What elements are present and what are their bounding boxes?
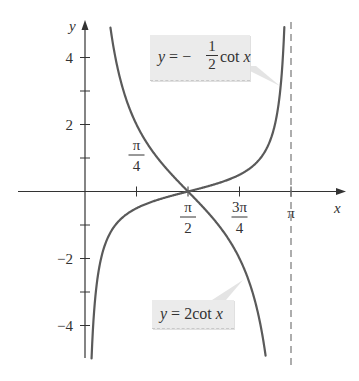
y-tick-label: −4	[57, 318, 73, 334]
x-tick-label-denominator: 4	[236, 220, 244, 236]
x-axis-label: x	[333, 200, 341, 216]
y-tick-label: 2	[66, 117, 74, 133]
x-tick-label-denominator: 2	[184, 220, 192, 236]
y-axis-arrow-icon	[82, 20, 89, 30]
callout-neg-half-cot: y = − 1 2 cot x	[150, 35, 250, 81]
x-tick-label: π	[287, 205, 295, 221]
x-axis-arrow-icon	[336, 188, 346, 195]
callout-pointer-bottom	[212, 280, 243, 300]
x-tick-label-numerator: 3π	[232, 199, 248, 215]
x-tick-label-denominator: 4	[133, 158, 141, 174]
y-tick-label: −2	[57, 251, 73, 267]
x-tick-label-numerator: π	[133, 137, 141, 153]
fraction: 1 2	[206, 38, 218, 73]
x-tick-label-numerator: π	[184, 199, 192, 215]
y-tick-label: 4	[66, 50, 74, 66]
y-axis-label: y	[67, 18, 76, 34]
callout-two-cot: y = 2cot x	[152, 300, 234, 329]
